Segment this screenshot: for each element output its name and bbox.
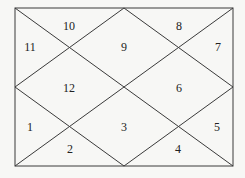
house-label-12: 12 — [63, 81, 75, 95]
house-label-11: 11 — [24, 40, 36, 54]
house-label-8: 8 — [176, 19, 182, 33]
astrology-chart: 101198712613524 — [0, 0, 245, 178]
house-label-3: 3 — [121, 120, 127, 134]
house-label-5: 5 — [214, 120, 220, 134]
house-label-9: 9 — [121, 40, 127, 54]
house-label-7: 7 — [215, 40, 221, 54]
house-label-4: 4 — [175, 142, 181, 156]
house-label-6: 6 — [176, 81, 182, 95]
house-label-1: 1 — [27, 120, 33, 134]
house-label-2: 2 — [67, 142, 73, 156]
house-label-10: 10 — [63, 19, 75, 33]
